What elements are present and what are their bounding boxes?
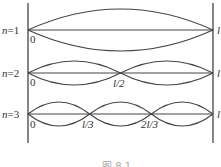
wave-lower-n1: [28, 30, 213, 51]
origin-label-n3: 0: [30, 118, 36, 130]
mode-label-n1: n=1: [2, 24, 19, 36]
right-label-n1: l: [217, 24, 220, 36]
right-label-n3: l: [217, 108, 220, 120]
mode-n3: n=3 0 l/3 2l/3: [2, 102, 213, 130]
mode-n1: n=1 0: [2, 9, 213, 51]
mode-label-n3: n=3: [2, 108, 20, 120]
node-label-two-thirds: 2l/3: [141, 118, 159, 130]
standing-wave-diagram: n=1 0 n=2 0 l/2 n=3 0 l/3 2l/3 l l l 图 8…: [0, 0, 221, 167]
origin-label-n2: 0: [30, 76, 36, 88]
node-label-half: l/2: [113, 77, 125, 89]
right-label-n2: l: [217, 67, 220, 79]
mode-n2: n=2 0 l/2: [2, 61, 213, 89]
figure-caption: 图 8.1: [102, 161, 131, 167]
origin-label-n1: 0: [30, 33, 36, 45]
wave-upper-n1: [28, 9, 213, 30]
mode-label-n2: n=2: [2, 67, 19, 79]
node-label-third: l/3: [82, 118, 94, 130]
